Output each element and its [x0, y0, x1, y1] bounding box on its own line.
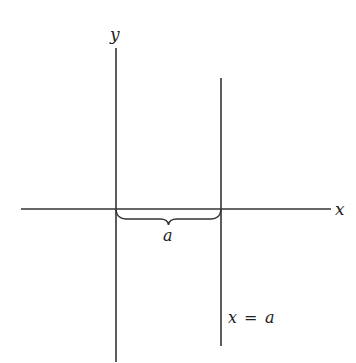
- brace: [116, 210, 221, 225]
- y-axis-label: y: [109, 24, 120, 44]
- line-label-rhs: a: [265, 308, 275, 327]
- line-label-lhs: x: [228, 308, 237, 327]
- line-label-op: =: [244, 308, 257, 327]
- brace-label: a: [163, 226, 173, 245]
- x-axis-label: x: [335, 199, 345, 219]
- diagram-canvas: y x a x = a: [0, 0, 356, 363]
